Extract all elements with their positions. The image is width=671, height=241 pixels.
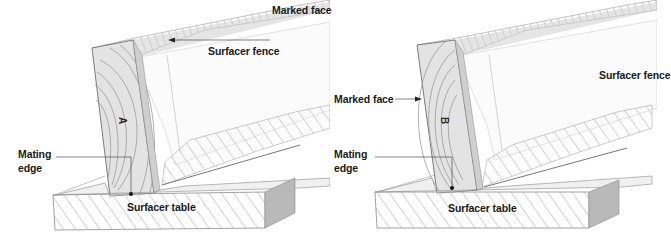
panel-board-a: Marked face Surfacer fence Mating edge S… (0, 0, 330, 241)
label-surfacer-fence: Surfacer fence (599, 68, 671, 82)
label-surfacer-table: Surfacer table (448, 201, 517, 215)
panel-board-b: Surfacer fence Marked face Mating edge S… (327, 0, 657, 241)
mating-edge-dot (450, 186, 454, 190)
label-marked-face: Marked face (334, 92, 394, 106)
label-surfacer-table: Surfacer table (127, 200, 196, 214)
board-letter-a: A (117, 117, 128, 124)
label-mating-edge-line1: Mating (18, 147, 51, 161)
label-mating-edge-line2: edge (18, 161, 42, 175)
board-letter-b: B (439, 117, 450, 124)
label-surfacer-fence: Surfacer fence (208, 44, 280, 58)
mating-edge-dot (129, 192, 133, 196)
label-marked-face: Marked face (272, 3, 332, 17)
label-mating-edge-line1: Mating (334, 147, 367, 161)
arrow-icon (415, 97, 422, 102)
label-mating-edge-line2: edge (334, 161, 358, 175)
